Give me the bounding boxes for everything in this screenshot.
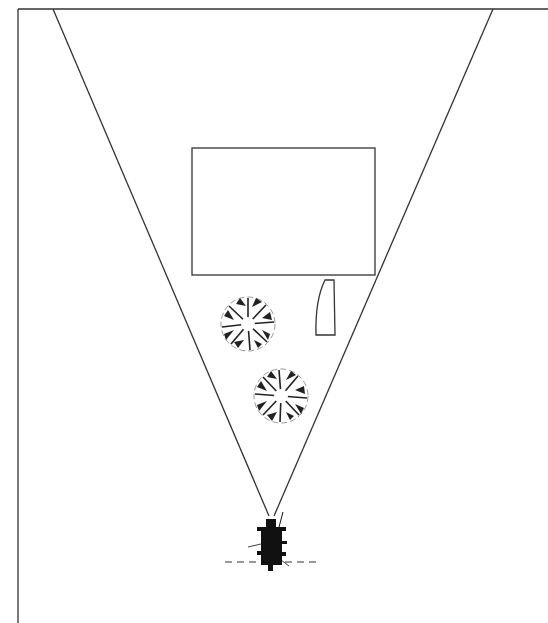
tree-icon [254,369,308,423]
view-cone-left-ray [53,9,269,516]
view-cone-right-ray [274,9,493,516]
view-cone [53,9,493,516]
car-shape [316,280,335,335]
view-cone-diagram [0,0,548,623]
tree-icon [221,297,275,351]
building-rectangle [192,148,375,275]
